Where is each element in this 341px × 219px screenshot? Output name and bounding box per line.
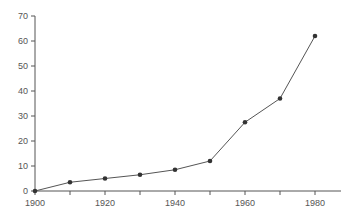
data-point-marker xyxy=(313,34,318,39)
y-tick-label: 40 xyxy=(18,86,28,96)
data-point-marker xyxy=(33,189,38,194)
y-tick-label: 10 xyxy=(18,161,28,171)
x-tick-label: 1920 xyxy=(95,198,115,208)
x-tick-label: 1960 xyxy=(235,198,255,208)
x-tick-label: 1940 xyxy=(165,198,185,208)
y-tick-label: 70 xyxy=(18,11,28,21)
y-tick-label: 20 xyxy=(18,136,28,146)
data-point-marker xyxy=(208,159,213,164)
data-point-marker xyxy=(243,120,248,125)
data-point-marker xyxy=(68,180,73,185)
y-tick-label: 0 xyxy=(23,186,28,196)
x-tick-label: 1900 xyxy=(25,198,45,208)
line-chart: 01020304050607019001920194019601980 xyxy=(0,0,341,219)
data-point-marker xyxy=(138,172,143,177)
y-tick-label: 50 xyxy=(18,61,28,71)
y-tick-label: 60 xyxy=(18,36,28,46)
data-point-marker xyxy=(103,176,108,181)
x-tick-label: 1980 xyxy=(305,198,325,208)
data-point-marker xyxy=(173,167,178,172)
data-point-marker xyxy=(278,96,283,101)
y-tick-label: 30 xyxy=(18,111,28,121)
chart-canvas: 01020304050607019001920194019601980 xyxy=(0,0,341,219)
